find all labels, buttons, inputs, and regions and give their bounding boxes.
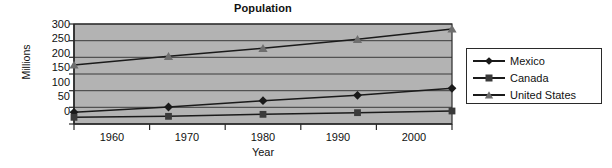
legend-item-canada[interactable]: Canada [471,69,597,86]
data-point-marker [354,109,361,116]
x-tick-label: 1980 [238,131,288,143]
x-tick-label: 2000 [389,131,439,143]
legend-item-mexico[interactable]: Mexico [471,52,597,69]
x-tick-label: 1970 [162,131,212,143]
data-point-marker [71,114,78,121]
legend-item-united-states[interactable]: United States [471,86,597,103]
data-point-marker [449,108,456,115]
population-line-chart: Population Millions 300 250 200 150 100 … [0,0,612,168]
legend-marker-diamond-icon [471,54,507,68]
chart-legend: Mexico Canada United States [466,48,602,104]
legend-label: Canada [507,72,549,84]
data-point-marker [165,113,172,120]
legend-marker-square-icon [471,71,507,85]
data-point-marker [260,111,267,118]
x-tick-label: 1990 [313,131,363,143]
x-tick-label: 1960 [87,131,137,143]
x-axis-title: Year [74,146,452,158]
legend-label: Mexico [507,55,545,67]
legend-label: United States [507,89,576,101]
legend-marker-triangle-icon [471,88,507,102]
